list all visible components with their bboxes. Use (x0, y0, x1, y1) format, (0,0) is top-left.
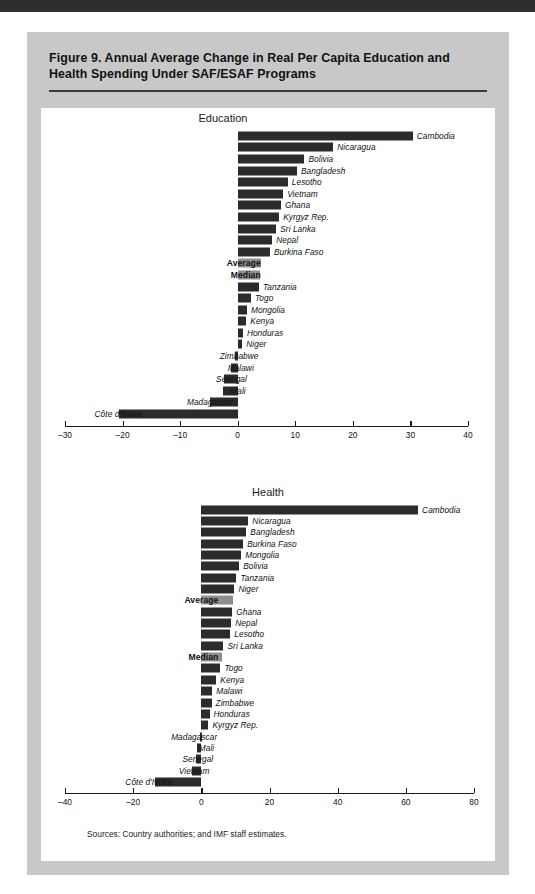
bar-row: Vietnam (41, 188, 495, 200)
axis-tick (65, 788, 66, 793)
bar-nepal (201, 619, 231, 628)
title-divider (49, 90, 487, 92)
axis-tick (468, 421, 469, 426)
bar-row: Niger (41, 583, 495, 594)
bar-label: Côte d'Ivoire (95, 409, 142, 419)
bar-label: Vietnam (287, 189, 318, 199)
axis-tick-label: –30 (58, 430, 72, 440)
bar-label: Nicaragua (337, 142, 375, 152)
bar-togo (201, 664, 220, 673)
chart-panel: Education CambodiaNicaraguaBoliviaBangla… (41, 108, 495, 861)
bar-row: Sri Lanka (41, 223, 495, 235)
axis-tick (180, 421, 181, 426)
axis-tick (201, 788, 202, 793)
axis-tick-label: 60 (401, 797, 410, 807)
bar-label: Tanzania (263, 282, 297, 292)
bar-row: Madagascar (41, 397, 495, 409)
education-axis-line (65, 426, 468, 427)
bar-row: Nepal (41, 234, 495, 246)
bar-row: Cambodia (41, 504, 495, 515)
bar-row: Burkina Faso (41, 538, 495, 549)
bar-label: Ghana (285, 200, 310, 210)
bar-row: Niger (41, 339, 495, 351)
bar-row: Côte d'Ivoire (41, 776, 495, 787)
bar-row: Kenya (41, 316, 495, 328)
axis-tick-label: 40 (463, 430, 472, 440)
bar-label: Vietnam (179, 766, 210, 776)
bar-row: Honduras (41, 327, 495, 339)
bar-label: Mali (230, 386, 245, 396)
health-chart-title: Health (41, 486, 495, 498)
bar-row: Zimbabwe (41, 350, 495, 362)
bar-row: Ghana (41, 200, 495, 212)
bar-row: Togo (41, 663, 495, 674)
bar-kyrgyz-rep (201, 721, 208, 730)
aggregate-label-average: Average (227, 258, 261, 268)
health-chart: Health CambodiaNicaraguaBangladeshBurkin… (41, 486, 495, 816)
axis-tick (133, 788, 134, 793)
bar-row: Ghana (41, 606, 495, 617)
axis-tick-label: 10 (291, 430, 300, 440)
bar-row: Kyrgyz Rep. (41, 720, 495, 731)
bar-row: Togo (41, 292, 495, 304)
axis-tick (353, 421, 354, 426)
bar-row: Bangladesh (41, 527, 495, 538)
bar-row: Zimbabwe (41, 697, 495, 708)
bar-row: Average (41, 258, 495, 270)
bar-label: Mongolia (245, 550, 279, 560)
bar-row: Bolivia (41, 153, 495, 165)
axis-tick-label: 0 (199, 797, 204, 807)
bar-lesotho (201, 630, 230, 639)
bar-label: Honduras (214, 709, 250, 719)
bar-cambodia (238, 131, 413, 140)
bar-row: Mongolia (41, 549, 495, 560)
bar-label: Madagascar (171, 732, 217, 742)
bar-label: Sri Lanka (280, 224, 316, 234)
bar-nicaragua (238, 143, 334, 152)
axis-tick-label: 40 (333, 797, 342, 807)
bar-mongolia (201, 551, 241, 560)
figure-container: Figure 9. Annual Average Change in Real … (27, 32, 509, 875)
bar-label: Ghana (236, 607, 261, 617)
page: Figure 9. Annual Average Change in Real … (0, 0, 535, 894)
bar-row: Lesotho (41, 176, 495, 188)
bar-lesotho (238, 178, 288, 187)
axis-tick (410, 421, 411, 426)
bar-tanzania (238, 282, 259, 291)
bar-label: Tanzania (240, 573, 274, 583)
bar-cambodia (201, 505, 418, 514)
bar-label: Bolivia (243, 561, 268, 571)
bar-label: Bolivia (308, 154, 333, 164)
bar-togo (238, 294, 251, 303)
bar-label: Cambodia (417, 131, 455, 141)
bar-row: Nepal (41, 617, 495, 628)
bar-label: Sri Lanka (227, 641, 263, 651)
bar-row: Mongolia (41, 304, 495, 316)
axis-tick-label: 0 (235, 430, 240, 440)
bar-row: Kenya (41, 674, 495, 685)
bar-mongolia (238, 305, 247, 314)
bar-row: Senegal (41, 373, 495, 385)
bar-tanzania (201, 573, 236, 582)
axis-tick-label: –20 (116, 430, 130, 440)
bar-kyrgyz-rep (238, 212, 279, 221)
bar-row: Kyrgyz Rep. (41, 211, 495, 223)
bar-label: Burkina Faso (247, 539, 296, 549)
page-top-rule (0, 0, 535, 12)
bar-label: Mongolia (251, 305, 285, 315)
bar-row: Bolivia (41, 561, 495, 572)
axis-tick (270, 788, 271, 793)
bar-row: Nicaragua (41, 515, 495, 526)
bar-label: Malawi (228, 363, 254, 373)
bar-label: Kenya (250, 316, 274, 326)
bar-nicaragua (201, 517, 248, 526)
bar-label: Honduras (247, 328, 283, 338)
bar-bolivia (201, 562, 239, 571)
axis-tick-label: –10 (173, 430, 187, 440)
bar-row: Madagascar (41, 731, 495, 742)
bar-label: Kyrgyz Rep. (212, 720, 258, 730)
axis-tick (65, 421, 66, 426)
axis-tick-label: –40 (58, 797, 72, 807)
bar-label: Bangladesh (301, 166, 345, 176)
bar-ghana (201, 607, 232, 616)
